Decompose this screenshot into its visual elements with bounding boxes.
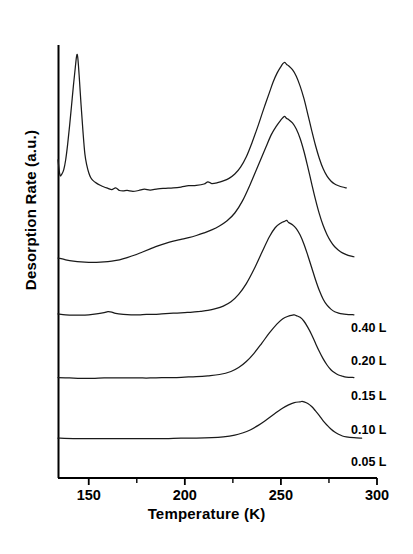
- tpd-spectra-figure: Desorption Rate (a.u.) Temperature (K) 1…: [0, 0, 413, 554]
- curve-0-05-l: [58, 401, 362, 438]
- curve-0-20-l: [58, 116, 354, 262]
- x-tick-label-150: 150: [59, 487, 119, 503]
- series-label-0-05-l: 0.05 L: [351, 455, 386, 469]
- curve-0-40-l: [58, 54, 346, 191]
- series-label-0-40-l: 0.40 L: [351, 321, 386, 335]
- series-label-0-20-l: 0.20 L: [351, 354, 386, 368]
- x-tick-label-200: 200: [155, 487, 215, 503]
- x-tick-label-300: 300: [347, 487, 407, 503]
- curve-0-10-l: [58, 315, 354, 379]
- y-axis-title: Desorption Rate (a.u.): [22, 0, 39, 420]
- x-axis-title: Temperature (K): [0, 505, 413, 522]
- curve-0-15-l: [58, 220, 354, 315]
- curve-group: [58, 54, 362, 438]
- series-label-0-15-l: 0.15 L: [351, 389, 386, 403]
- series-label-0-10-l: 0.10 L: [351, 423, 386, 437]
- x-tick-label-250: 250: [251, 487, 311, 503]
- plot-canvas: [0, 0, 413, 554]
- x-axis-ticks: [89, 478, 377, 485]
